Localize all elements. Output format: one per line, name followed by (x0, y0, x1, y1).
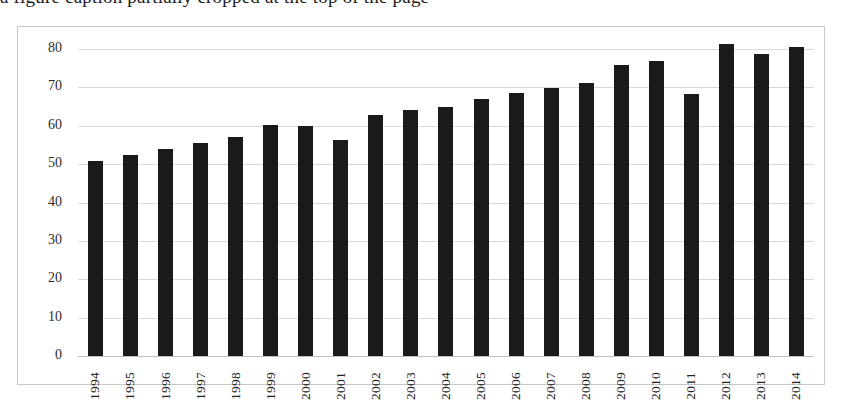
x-tick-2008: 2008 (569, 356, 604, 404)
bar-slot (183, 49, 218, 356)
bar-slot (779, 49, 814, 356)
bar-slot (499, 49, 534, 356)
y-tick-label-60: 60 (16, 117, 62, 133)
x-tick-2004: 2004 (428, 356, 463, 404)
cropped-heading-text: a figure caption partially cropped at th… (0, 0, 845, 8)
bar-slot (288, 49, 323, 356)
bar-slot (534, 49, 569, 356)
y-tick-label-40: 40 (16, 194, 62, 210)
bar-slot (569, 49, 604, 356)
x-tick-2006: 2006 (499, 356, 534, 404)
x-tick-1995: 1995 (113, 356, 148, 404)
bar-slot (323, 49, 358, 356)
bar-2010 (649, 61, 664, 356)
bar-series (78, 49, 814, 356)
x-tick-2005: 2005 (464, 356, 499, 404)
bar-2008 (579, 83, 594, 356)
bar-2014 (789, 47, 804, 356)
x-tick-label: 2012 (718, 372, 734, 400)
x-tick-label: 2006 (508, 372, 524, 400)
bar-slot (253, 49, 288, 356)
bar-slot (604, 49, 639, 356)
x-tick-label: 2001 (333, 372, 349, 400)
bar-slot (218, 49, 253, 356)
bar-2011 (684, 94, 699, 356)
x-tick-2001: 2001 (323, 356, 358, 404)
x-tick-2009: 2009 (604, 356, 639, 404)
x-tick-2007: 2007 (534, 356, 569, 404)
bar-2005 (474, 99, 489, 356)
bar-1999 (263, 125, 278, 356)
x-tick-label: 2010 (648, 372, 664, 400)
bar-slot (639, 49, 674, 356)
bar-1995 (123, 155, 138, 356)
x-tick-label: 2011 (683, 372, 699, 400)
bar-slot (428, 49, 463, 356)
bar-2009 (614, 65, 629, 356)
x-tick-label: 1999 (263, 372, 279, 400)
x-tick-1997: 1997 (183, 356, 218, 404)
bar-1998 (228, 137, 243, 357)
bar-slot (744, 49, 779, 356)
bar-slot (358, 49, 393, 356)
x-tick-2013: 2013 (744, 356, 779, 404)
bar-slot (709, 49, 744, 356)
x-tick-1999: 1999 (253, 356, 288, 404)
bar-slot (78, 49, 113, 356)
bar-2002 (368, 115, 383, 356)
y-tick-label-80: 80 (16, 40, 62, 56)
x-tick-label: 1994 (88, 372, 104, 400)
x-tick-label: 2005 (473, 372, 489, 400)
bar-1997 (193, 143, 208, 356)
x-tick-label: 1998 (228, 372, 244, 400)
x-tick-2003: 2003 (393, 356, 428, 404)
x-tick-label: 2013 (753, 372, 769, 400)
y-tick-label-0: 0 (16, 347, 62, 363)
x-tick-label: 2000 (298, 372, 314, 400)
bar-slot (464, 49, 499, 356)
bar-2004 (438, 107, 453, 356)
x-tick-label: 2003 (403, 372, 419, 400)
bar-2000 (298, 126, 313, 356)
bar-slot (113, 49, 148, 356)
x-tick-2000: 2000 (288, 356, 323, 404)
x-tick-label: 1997 (193, 372, 209, 400)
x-tick-label: 2002 (368, 372, 384, 400)
x-tick-1998: 1998 (218, 356, 253, 404)
y-tick-label-50: 50 (16, 155, 62, 171)
bar-slot (393, 49, 428, 356)
bar-2001 (333, 140, 348, 356)
x-tick-2014: 2014 (779, 356, 814, 404)
bar-2007 (544, 88, 559, 356)
bar-1994 (88, 161, 103, 356)
y-tick-label-30: 30 (16, 232, 62, 248)
x-tick-label: 2014 (788, 372, 804, 400)
x-tick-2010: 2010 (639, 356, 674, 404)
bar-1996 (158, 149, 173, 356)
x-tick-label: 2009 (613, 372, 629, 400)
x-tick-label: 2007 (543, 372, 559, 400)
x-tick-label: 2004 (438, 372, 454, 400)
x-tick-2002: 2002 (358, 356, 393, 404)
y-tick-label-70: 70 (16, 78, 62, 94)
bar-2003 (403, 110, 418, 356)
chart-frame: 01020304050607080 1994199519961997199819… (17, 26, 825, 385)
x-tick-label: 2008 (578, 372, 594, 400)
x-tick-2011: 2011 (674, 356, 709, 404)
bar-slot (674, 49, 709, 356)
bar-2006 (509, 93, 524, 356)
x-tick-label: 1996 (158, 372, 174, 400)
plot-area: 01020304050607080 1994199519961997199819… (78, 49, 814, 356)
x-tick-2012: 2012 (709, 356, 744, 404)
y-tick-label-20: 20 (16, 270, 62, 286)
bar-2012 (719, 44, 734, 356)
x-tick-1996: 1996 (148, 356, 183, 404)
bar-slot (148, 49, 183, 356)
bar-2013 (754, 54, 769, 356)
x-tick-label: 1995 (123, 372, 139, 400)
x-tick-1994: 1994 (78, 356, 113, 404)
y-tick-label-10: 10 (16, 309, 62, 325)
